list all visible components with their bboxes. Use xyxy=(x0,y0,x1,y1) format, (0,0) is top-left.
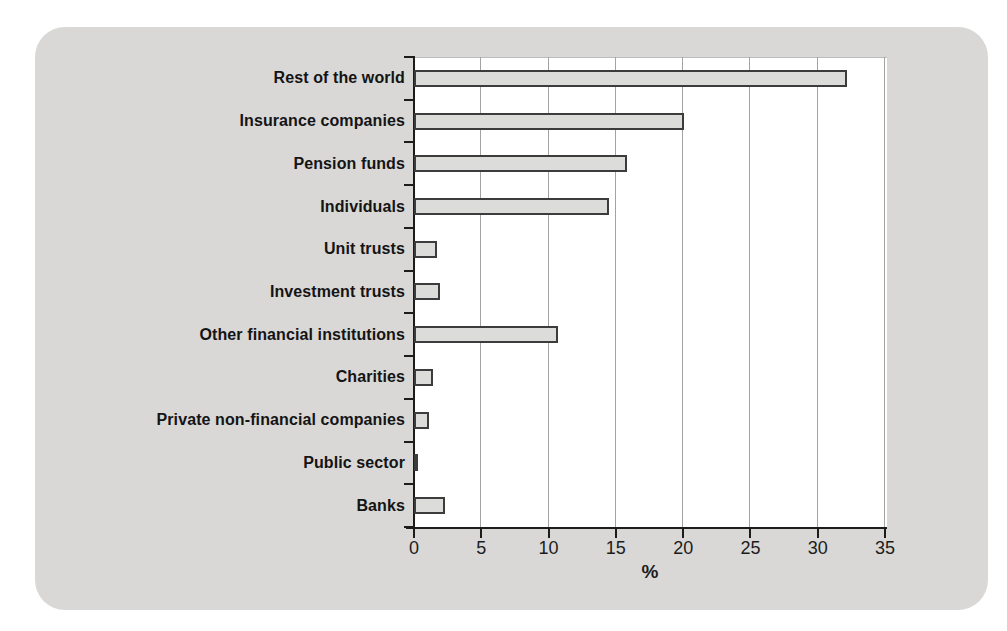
x-axis-label: % xyxy=(642,561,659,583)
x-tick xyxy=(817,529,819,538)
x-tick xyxy=(749,529,751,538)
bar-zone xyxy=(414,185,887,228)
bar-zone xyxy=(414,313,887,356)
x-tick-label: 35 xyxy=(875,538,895,559)
x-tick xyxy=(548,529,550,538)
category-row: Private non-financial companies xyxy=(0,399,887,442)
category-row: Pension funds xyxy=(0,142,887,185)
x-tick-label: 0 xyxy=(409,538,419,559)
x-tick xyxy=(682,529,684,538)
category-row: Other financial institutions xyxy=(0,313,887,356)
bar-zone xyxy=(414,399,887,442)
x-tick xyxy=(615,529,617,538)
category-label: Private non-financial companies xyxy=(0,411,414,429)
category-row: Charities xyxy=(0,356,887,399)
category-row: Insurance companies xyxy=(0,100,887,143)
category-row: Unit trusts xyxy=(0,228,887,271)
bar xyxy=(414,70,847,87)
category-label: Unit trusts xyxy=(0,240,414,258)
x-tick xyxy=(480,529,482,538)
category-label: Pension funds xyxy=(0,155,414,173)
bar-zone xyxy=(414,441,887,484)
bar xyxy=(414,369,433,386)
category-label: Banks xyxy=(0,497,414,515)
category-label: Insurance companies xyxy=(0,112,414,130)
category-label: Rest of the world xyxy=(0,69,414,87)
category-row: Rest of the world xyxy=(0,57,887,100)
x-tick-label: 10 xyxy=(539,538,559,559)
bar-zone xyxy=(414,100,887,143)
x-tick-label: 20 xyxy=(673,538,693,559)
category-row: Investment trusts xyxy=(0,271,887,314)
category-label: Other financial institutions xyxy=(0,326,414,344)
x-axis-line xyxy=(406,527,887,529)
bar-zone xyxy=(414,484,887,527)
x-tick-label: 25 xyxy=(740,538,760,559)
bar xyxy=(414,454,418,471)
bar-zone xyxy=(414,356,887,399)
category-row: Individuals xyxy=(0,185,887,228)
x-tick-label: 30 xyxy=(808,538,828,559)
category-row: Public sector xyxy=(0,441,887,484)
bar xyxy=(414,198,609,215)
bar xyxy=(414,241,437,258)
bar-zone xyxy=(414,142,887,185)
category-label: Individuals xyxy=(0,198,414,216)
bar xyxy=(414,497,445,514)
bar-zone xyxy=(414,57,887,100)
x-tick-label: 5 xyxy=(476,538,486,559)
bar xyxy=(414,326,558,343)
x-tick xyxy=(884,529,886,538)
category-rows: Rest of the worldInsurance companiesPens… xyxy=(0,57,887,527)
x-tick xyxy=(413,529,415,538)
x-tick-label: 15 xyxy=(606,538,626,559)
bar-zone xyxy=(414,228,887,271)
category-row: Banks xyxy=(0,484,887,527)
bar xyxy=(414,113,684,130)
category-label: Public sector xyxy=(0,454,414,472)
category-label: Charities xyxy=(0,368,414,386)
bar xyxy=(414,283,440,300)
category-label: Investment trusts xyxy=(0,283,414,301)
bar-zone xyxy=(414,271,887,314)
bar xyxy=(414,155,627,172)
bar xyxy=(414,412,429,429)
